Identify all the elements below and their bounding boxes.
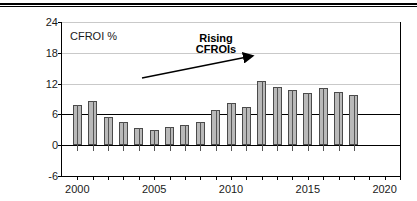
plot-right-border [400,22,401,176]
bar-stem [93,101,94,151]
x-axis-tick [108,176,109,180]
top-rule-secondary [0,6,417,7]
x-axis-tick-label: 2010 [219,183,243,195]
x-axis-tick [246,176,247,180]
bar-stem [246,107,247,152]
x-axis-tick-label: 2005 [142,183,166,195]
y-axis-tick-label: 12 [46,78,58,90]
bar-stem [77,105,78,152]
x-axis-tick [339,176,340,180]
x-axis-tick [277,176,278,180]
x-axis-tick [93,176,94,180]
x-axis-tick [185,176,186,180]
x-axis-tick [216,176,217,180]
bar-stem [231,103,232,151]
bar-stem [277,87,278,151]
x-axis-tick [323,176,324,180]
x-axis-tick [123,176,124,180]
top-rule [0,3,417,5]
x-axis-tick [231,176,232,180]
x-axis-tick [369,176,370,180]
x-axis-tick [292,176,293,180]
rising-trend-arrow-icon [140,48,265,82]
y-axis-tick [58,53,62,54]
chart-figure: 24181260-6 CFROI % Rising CFROIs 2000200… [0,0,417,201]
y-axis-tick-label: 18 [46,47,58,59]
x-axis-tick [308,176,309,180]
y-axis-tick-label: 24 [46,16,58,28]
y-gridline [62,22,400,23]
x-axis-tick [385,176,386,180]
bar-stem [308,93,309,152]
bar-stem [339,92,340,152]
x-axis-tick [77,176,78,180]
bar-stem [292,90,293,152]
x-axis-tick [400,176,401,180]
x-axis-tick-label: 2015 [296,183,320,195]
bar-stem [323,88,324,152]
x-axis-tick-label: 2020 [372,183,396,195]
y-gridline [62,84,400,85]
bar-stem [108,117,109,151]
x-axis-tick-label: 2000 [65,183,89,195]
x-axis-tick [262,176,263,180]
bar-stem [139,128,140,151]
bar-stem [185,125,186,152]
y-axis-inline-label: CFROI % [70,30,117,42]
x-axis-tick [200,176,201,180]
y-axis-labels: 24181260-6 [0,0,58,201]
x-axis-tick [139,176,140,180]
x-axis-tick [354,176,355,180]
y-axis-tick [58,22,62,23]
bar-stem [262,81,263,152]
y-axis-tick [58,84,62,85]
bar-stem [200,122,201,151]
bar-stem [170,127,171,152]
bar-stem [154,130,155,152]
bar-stem [354,95,355,151]
x-axis-tick [170,176,171,180]
y-axis-tick-label: -6 [48,170,58,182]
bar-stem [216,110,217,152]
x-axis-tick [154,176,155,180]
bar-stem [123,122,124,151]
